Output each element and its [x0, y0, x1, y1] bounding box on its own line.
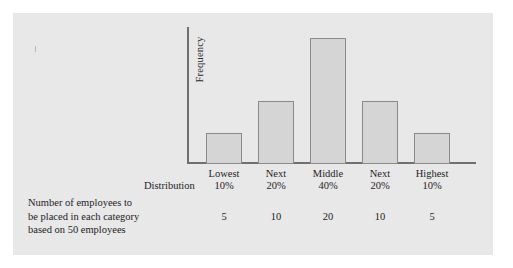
- category-name: Next: [354, 168, 406, 180]
- category-name: Lowest: [198, 168, 250, 180]
- caption-line-1: Number of employees to: [28, 196, 139, 210]
- bar: [206, 133, 242, 165]
- page-speck: [35, 46, 36, 52]
- caption-line-2: be placed in each category: [28, 210, 139, 224]
- bar: [258, 101, 294, 164]
- bar-chart-plot-area: Frequency: [174, 14, 479, 166]
- x-axis-title: Distribution: [144, 180, 195, 191]
- category-label: Middle40%: [302, 168, 354, 191]
- bar: [414, 133, 450, 165]
- category-name: Middle: [302, 168, 354, 180]
- bar: [310, 38, 346, 164]
- category-name: Highest: [406, 168, 458, 180]
- category-label: Next20%: [354, 168, 406, 191]
- employee-count-value: 5: [406, 211, 458, 222]
- caption-line-3: based on 50 employees: [28, 223, 139, 237]
- category-percent: 10%: [198, 180, 250, 192]
- category-label: Highest10%: [406, 168, 458, 191]
- employee-count-value: 10: [250, 211, 302, 222]
- employee-count-value: 5: [198, 211, 250, 222]
- y-axis-title: Frequency: [194, 20, 205, 100]
- category-name: Next: [250, 168, 302, 180]
- y-axis-line: [187, 27, 189, 164]
- category-label: Next20%: [250, 168, 302, 191]
- category-percent: 10%: [406, 180, 458, 192]
- category-percent: 40%: [302, 180, 354, 192]
- employee-count-value: 10: [354, 211, 406, 222]
- caption-block: Number of employees to be placed in each…: [28, 196, 139, 237]
- category-percent: 20%: [250, 180, 302, 192]
- bar: [362, 101, 398, 164]
- category-label: Lowest10%: [198, 168, 250, 191]
- figure-root: Frequency Lowest10%Next20%Middle40%Next2…: [0, 0, 513, 268]
- category-percent: 20%: [354, 180, 406, 192]
- employee-count-value: 20: [302, 211, 354, 222]
